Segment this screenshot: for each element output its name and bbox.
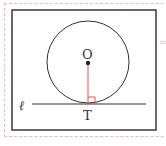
tangent-point-label: T bbox=[83, 109, 92, 122]
tangent-diagram bbox=[0, 0, 166, 146]
line-label: ℓ bbox=[19, 99, 24, 112]
center-label: O bbox=[82, 48, 93, 61]
margin-mark: = bbox=[159, 38, 165, 44]
